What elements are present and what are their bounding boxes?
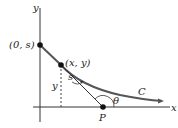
angle-theta-label: θ: [113, 95, 119, 106]
curve-c-label: C: [138, 86, 146, 97]
height-label: y: [51, 80, 58, 91]
arc-length-arrow: [72, 82, 82, 84]
intercept-label: (0, s): [9, 39, 35, 50]
curve-arrow-icon: [158, 99, 164, 104]
point-p-label: P: [98, 112, 106, 123]
arc-length-label: s: [68, 71, 73, 82]
intercept-point: [37, 42, 43, 48]
y-axis-label: y: [32, 2, 39, 13]
curve-point-label: (x, y): [65, 57, 91, 68]
x-axis-label: x: [171, 102, 177, 113]
diagram-canvas: y x (0, s) (x, y) P y s θ C: [0, 0, 178, 128]
curve-point: [58, 62, 64, 68]
point-p: [100, 104, 106, 110]
